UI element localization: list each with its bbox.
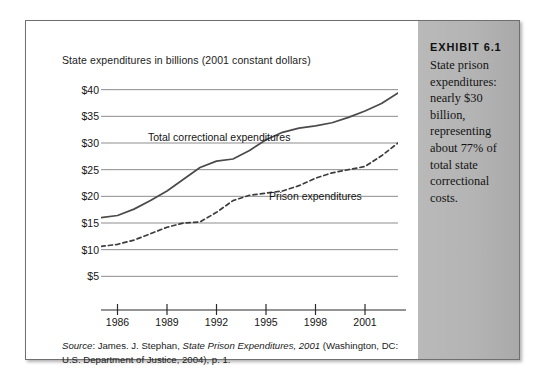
y-tick-label: $5 (87, 270, 99, 282)
source-label: Source (62, 340, 92, 351)
y-tick-label: $15 (81, 217, 99, 229)
x-axis-labels: 198619891992199519982001 (101, 316, 398, 332)
x-tick-label: 1992 (205, 316, 228, 328)
x-tick-label: 1998 (304, 316, 327, 328)
x-tick-label: 1989 (155, 316, 178, 328)
chart-panel: State expenditures in billions (2001 con… (26, 21, 420, 359)
x-tick-label: 2001 (353, 316, 376, 328)
x-tick-label: 1995 (254, 316, 277, 328)
source-text-part1: : James. J. Stephan, (92, 340, 182, 351)
series-label-total-correctional: Total correctional expenditures (148, 131, 290, 143)
exhibit-sidebar: EXHIBIT 6.1 State prison expenditures: n… (418, 21, 519, 359)
exhibit-frame: State expenditures in billions (2001 con… (25, 20, 520, 360)
y-axis-labels: $5$10$15$20$25$30$35$40 (66, 79, 99, 303)
exhibit-number: EXHIBIT 6.1 (430, 41, 509, 53)
y-tick-label: $30 (81, 137, 99, 149)
exhibit-caption: State prison expenditures: nearly $30 bi… (430, 57, 509, 206)
chart-title: State expenditures in billions (2001 con… (62, 54, 311, 66)
y-tick-label: $20 (81, 190, 99, 202)
source-title: State Prison Expenditures, 2001 (183, 340, 321, 351)
y-tick-label: $25 (81, 164, 99, 176)
y-tick-label: $40 (81, 84, 99, 96)
x-tick-label: 1986 (106, 316, 129, 328)
y-tick-label: $10 (81, 244, 99, 256)
y-tick-label: $35 (81, 110, 99, 122)
source-note: Source: James. J. Stephan, State Prison … (62, 339, 410, 366)
series-label-prison: Prison expenditures (269, 190, 362, 202)
gridlines (101, 90, 398, 277)
